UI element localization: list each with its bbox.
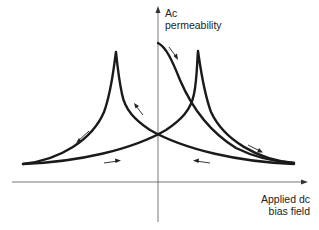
x-axis-label-line2: bias field (250, 205, 310, 217)
arrow-icon-left-rising (134, 103, 143, 115)
increasing-branch-curve (23, 51, 294, 164)
initial-branch-curve (158, 43, 294, 163)
arrow-icon-bottom-left-going (193, 159, 210, 164)
y-axis-arrowhead (156, 6, 161, 13)
x-axis-arrowhead (301, 180, 308, 185)
x-axis-label: Applied dc bias field (250, 193, 310, 217)
y-axis-label: Ac permeability (165, 7, 222, 31)
y-axis-label-line2: permeability (165, 19, 222, 31)
y-axis-label-line1: Ac (165, 7, 222, 19)
arrow-icon-bottom-right-going (104, 159, 121, 164)
x-axis-label-line1: Applied dc (250, 193, 310, 205)
